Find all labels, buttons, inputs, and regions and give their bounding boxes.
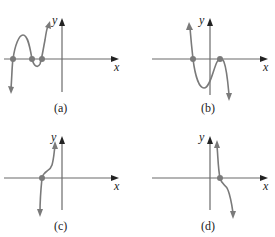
x-axis-label: x bbox=[262, 179, 269, 193]
curve-arrow-up-icon bbox=[186, 22, 193, 30]
curve-arrow-up-icon bbox=[45, 21, 51, 29]
zero-point bbox=[29, 56, 35, 62]
zero-point bbox=[39, 56, 45, 62]
zero-point bbox=[10, 56, 16, 62]
x-axis-label: x bbox=[113, 60, 120, 74]
y-axis-label: y bbox=[198, 130, 205, 144]
zero-point bbox=[190, 56, 196, 62]
panel-a: y x (a) bbox=[4, 13, 120, 115]
zero-point bbox=[39, 175, 45, 181]
y-axis-arrow-icon bbox=[59, 18, 65, 26]
curve-arrow-down-icon bbox=[8, 86, 14, 94]
y-axis-label: y bbox=[51, 13, 58, 27]
curve-arrow-down-icon bbox=[230, 211, 236, 219]
y-axis-arrow-icon bbox=[207, 18, 213, 26]
panel-caption: (a) bbox=[54, 101, 67, 115]
polynomial-graphs-figure: y x (a) y x (b) y x (c) bbox=[0, 0, 275, 237]
x-axis-label: x bbox=[262, 60, 269, 74]
y-axis-arrow-icon bbox=[207, 136, 213, 144]
zero-point bbox=[217, 175, 223, 181]
panel-c: y x (c) bbox=[4, 130, 120, 233]
panel-caption: (b) bbox=[201, 101, 215, 115]
curve-arrow-down-icon bbox=[226, 93, 232, 101]
panel-b: y x (b) bbox=[152, 13, 269, 115]
x-axis-label: x bbox=[113, 179, 120, 193]
panel-caption: (c) bbox=[54, 219, 67, 233]
y-axis-arrow-icon bbox=[59, 136, 65, 144]
panel-d: y x (d) bbox=[152, 130, 269, 233]
y-axis-label: y bbox=[50, 130, 57, 144]
curve-arrow-up-icon bbox=[214, 140, 220, 148]
y-axis-label: y bbox=[198, 13, 205, 27]
panel-caption: (d) bbox=[201, 219, 215, 233]
zero-point bbox=[217, 56, 223, 62]
curve-arrow-down-icon bbox=[37, 209, 43, 217]
